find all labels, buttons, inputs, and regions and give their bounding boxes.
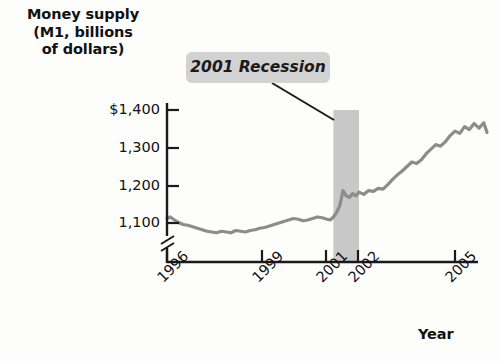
y-tick-label-1100: 1,100 bbox=[52, 214, 160, 230]
y-tick-label-1400: $1,400 bbox=[52, 101, 160, 117]
y-axis-title-line-2: (M1, billions bbox=[8, 24, 158, 42]
money-supply-line bbox=[167, 123, 487, 233]
y-axis-title: Money supply (M1, billions of dollars) bbox=[8, 6, 158, 59]
y-axis-title-line-1: Money supply bbox=[8, 6, 158, 24]
recession-annotation-callout: 2001 Recession bbox=[186, 52, 330, 83]
recession-annotation-label: 2001 Recession bbox=[186, 52, 330, 83]
annotation-leader-line bbox=[272, 83, 334, 120]
axis-break-mark-upper bbox=[161, 236, 174, 244]
chart-figure: Money supply (M1, billions of dollars) $… bbox=[0, 0, 501, 361]
y-tick-label-1300: 1,300 bbox=[52, 139, 160, 155]
recession-shaded-band bbox=[333, 110, 359, 262]
y-axis-title-line-3: of dollars) bbox=[8, 41, 158, 59]
y-tick-label-1200: 1,200 bbox=[52, 177, 160, 193]
y-axis-ticks bbox=[167, 110, 179, 223]
x-axis-ticks bbox=[167, 250, 455, 262]
x-axis-title: Year bbox=[418, 326, 454, 342]
